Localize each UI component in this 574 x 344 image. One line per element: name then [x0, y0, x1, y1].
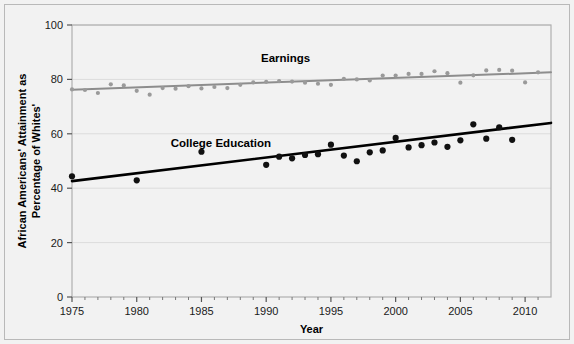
data-point	[316, 82, 320, 86]
data-point	[523, 80, 527, 84]
data-point	[69, 173, 75, 179]
data-point	[134, 177, 140, 183]
data-point	[342, 77, 346, 81]
data-point	[329, 83, 333, 87]
data-point	[186, 84, 190, 88]
data-point	[471, 73, 475, 77]
x-axis-ticks	[72, 297, 538, 302]
data-point	[536, 70, 540, 74]
data-point	[276, 154, 282, 160]
data-point	[405, 144, 411, 150]
data-point	[394, 73, 398, 77]
data-point	[496, 124, 502, 130]
data-point	[484, 68, 488, 72]
data-point	[444, 144, 450, 150]
data-point	[418, 142, 424, 148]
data-point	[445, 71, 449, 75]
x-tick-label: 1995	[319, 305, 343, 317]
data-point	[355, 77, 359, 81]
x-tick-label: 2010	[513, 305, 537, 317]
data-point	[432, 69, 436, 73]
data-point	[458, 81, 462, 85]
data-point	[109, 82, 113, 86]
data-point	[457, 137, 463, 143]
series-label-college-education: College Education	[171, 137, 271, 149]
data-point	[509, 137, 515, 143]
y-tick-label: 20	[51, 237, 63, 249]
data-point	[341, 152, 347, 158]
y-axis-title-line: African Americans' Attainment as	[16, 74, 28, 249]
y-tick-label: 60	[51, 128, 63, 140]
data-point	[380, 147, 386, 153]
data-point	[393, 135, 399, 141]
data-point	[173, 87, 177, 91]
y-axis-title-line: Percentage of Whites'	[30, 103, 42, 218]
axis-tick-labels: 19751980198519901995200020052010	[60, 305, 538, 317]
data-point	[225, 86, 229, 90]
data-point	[354, 158, 360, 164]
x-tick-label: 1990	[254, 305, 278, 317]
y-axis-ticks: 020406080100	[45, 19, 72, 303]
x-tick-label: 1985	[189, 305, 213, 317]
data-point	[83, 88, 87, 92]
data-point	[368, 78, 372, 82]
data-point	[497, 68, 501, 72]
plot-frame	[72, 25, 551, 297]
data-point	[212, 85, 216, 89]
data-point	[470, 121, 476, 127]
data-point	[199, 86, 203, 90]
data-point	[96, 91, 100, 95]
data-point	[302, 152, 308, 158]
data-point	[289, 155, 295, 161]
x-tick-label: 2005	[448, 305, 472, 317]
data-point	[264, 80, 268, 84]
data-point	[483, 136, 489, 142]
data-point	[161, 86, 165, 90]
data-point	[303, 81, 307, 85]
data-point	[290, 79, 294, 83]
data-point	[431, 139, 437, 145]
data-point	[367, 149, 373, 155]
data-point	[70, 87, 74, 91]
data-point	[277, 79, 281, 83]
data-point	[148, 93, 152, 97]
axis-frame	[72, 25, 551, 297]
data-points	[69, 68, 540, 184]
data-point	[122, 83, 126, 87]
data-point	[406, 72, 410, 76]
trendline-earnings	[72, 72, 551, 89]
y-tick-label: 0	[57, 291, 63, 303]
data-point	[381, 73, 385, 77]
x-tick-label: 2000	[383, 305, 407, 317]
data-point	[315, 151, 321, 157]
trendline-college-education	[72, 123, 551, 181]
data-point	[263, 162, 269, 168]
data-point	[419, 72, 423, 76]
y-tick-label: 40	[51, 182, 63, 194]
x-tick-label: 1980	[124, 305, 148, 317]
x-axis-title: Year	[300, 323, 324, 335]
data-point	[238, 83, 242, 87]
y-tick-label: 80	[51, 73, 63, 85]
gridlines	[72, 25, 551, 243]
data-point	[510, 69, 514, 73]
data-point	[135, 89, 139, 93]
x-tick-label: 1975	[60, 305, 84, 317]
data-point	[328, 142, 334, 148]
series-label-earnings: Earnings	[261, 52, 310, 64]
data-point	[198, 149, 204, 155]
data-point	[251, 80, 255, 84]
y-tick-label: 100	[45, 19, 63, 31]
series-annotations: EarningsCollege Education	[171, 52, 311, 150]
trendlines	[72, 72, 551, 181]
chart-figure: 020406080100 EarningsCollege Education 1…	[0, 0, 574, 344]
chart-plot-area: 020406080100 EarningsCollege Education 1…	[0, 0, 574, 344]
